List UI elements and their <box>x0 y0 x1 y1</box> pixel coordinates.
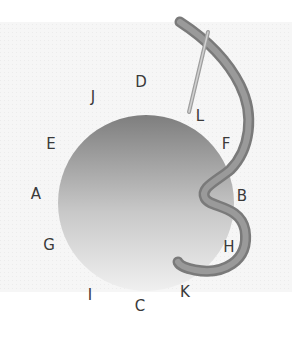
label-k: K <box>180 285 190 300</box>
label-g: G <box>43 238 55 253</box>
label-a: A <box>31 187 41 202</box>
stitch-diagram: A B C D E F G H I J K L <box>0 0 292 343</box>
label-i: I <box>88 288 92 303</box>
label-b: B <box>237 189 247 204</box>
label-l: L <box>196 109 204 124</box>
label-d: D <box>135 75 147 90</box>
diagram-canvas <box>0 0 292 343</box>
label-e: E <box>46 137 55 152</box>
label-h: H <box>223 240 234 255</box>
label-j: J <box>91 90 95 105</box>
label-f: F <box>222 137 231 152</box>
label-c: C <box>135 299 145 314</box>
